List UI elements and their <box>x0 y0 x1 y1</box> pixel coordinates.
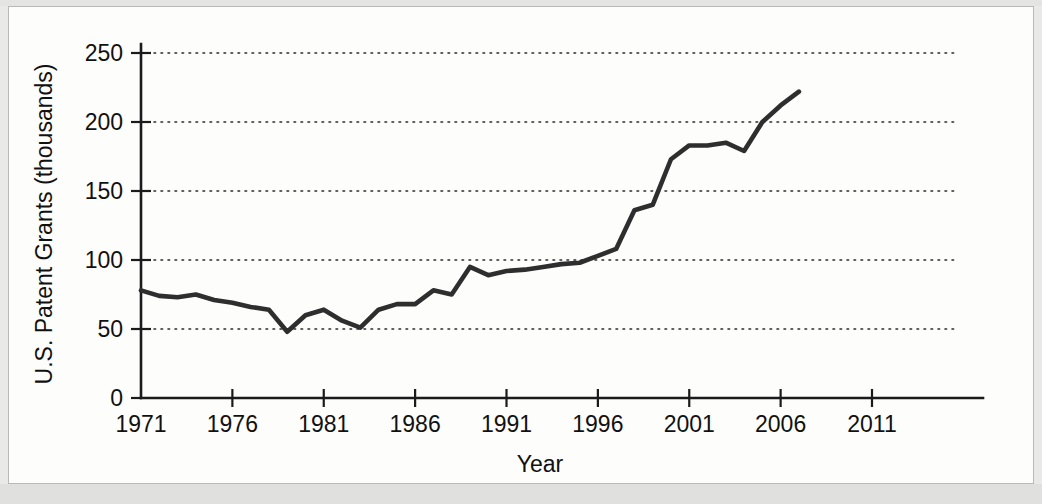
x-axis-tick-label: 1981 <box>298 411 349 437</box>
x-axis-tick-label: 1996 <box>572 411 623 437</box>
y-axis-tick-label: 100 <box>85 247 123 273</box>
y-axis-title: U.S. Patent Grants (thousands) <box>31 64 57 385</box>
y-axis-tick-label: 150 <box>85 178 123 204</box>
x-axis-tick-label: 1991 <box>481 411 532 437</box>
x-axis-tick-label: 1986 <box>390 411 441 437</box>
x-axis-tick-label: 2001 <box>664 411 715 437</box>
x-axis-tick-label: 2006 <box>755 411 806 437</box>
line-chart: 050100150200250 197119761981198619911996… <box>0 0 1042 504</box>
x-axis-tick-label: 2011 <box>847 411 896 437</box>
y-axis-tick-labels: 050100150200250 <box>85 40 123 411</box>
x-axis-tick-label: 1971 <box>115 411 166 437</box>
figure-page: 050100150200250 197119761981198619911996… <box>0 0 1042 504</box>
y-axis-tick-label: 50 <box>97 316 123 342</box>
x-axis-tick-label: 1976 <box>207 411 258 437</box>
y-axis-tick-label: 0 <box>110 385 123 411</box>
y-axis-tick-label: 250 <box>85 40 123 66</box>
gridlines <box>147 53 955 329</box>
data-series-line <box>141 92 799 332</box>
y-axis-tick-label: 200 <box>85 109 123 135</box>
x-axis-tick-labels: 197119761981198619911996200120062011 <box>115 411 896 437</box>
x-axis-title: Year <box>517 451 564 477</box>
